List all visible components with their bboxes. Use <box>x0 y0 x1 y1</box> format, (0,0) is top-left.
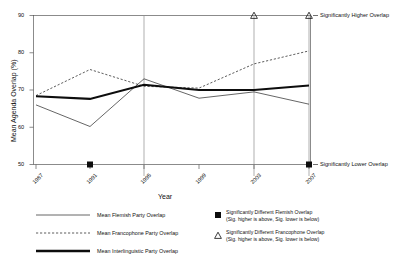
filled-square-marker <box>306 162 312 168</box>
y-tick-label: 80 <box>18 49 24 55</box>
legend-marker-francophone-title: Significantly Different Francophone Over… <box>226 229 324 236</box>
annotation-lower-overlap: Significantly Lower Overlap <box>320 161 388 168</box>
plot-frame <box>34 16 311 165</box>
x-axis-ticks <box>36 165 309 170</box>
annotation-leaders <box>313 16 318 165</box>
annotation-higher-overlap: Significantly Higher Overlap <box>320 12 389 19</box>
legend-marker-flemish-subtitle: (Sig. higher is above, Sig. lower is bel… <box>226 216 319 223</box>
x-axis-title: Year <box>158 193 172 200</box>
legend-item-flemish-label: Mean Flemish Party Overlap <box>97 212 165 218</box>
legend-item-francophone-label: Mean Francophone Party Overlap <box>97 230 178 236</box>
chart-figure: 90 80 70 60 50 Mean Agenda Overlap (%) 1… <box>0 0 413 264</box>
chart-canvas <box>0 0 413 264</box>
open-triangle-marker <box>215 232 222 238</box>
y-axis-ticks <box>30 16 34 165</box>
y-axis-title: Mean Agenda Overlap (%) <box>10 60 17 143</box>
legend-item-interlinguistic-label: Mean Interlinguistic Party Overlap <box>97 248 178 254</box>
y-tick-label: 60 <box>18 124 24 130</box>
vertical-gridlines <box>144 16 309 177</box>
filled-square-marker <box>87 162 93 168</box>
legend-marker-francophone-subtitle: (Sig. higher is above, Sig. lower is bel… <box>226 236 319 243</box>
y-tick-label: 90 <box>18 12 24 18</box>
y-tick-label: 70 <box>18 86 24 92</box>
series-line-interlinguistic <box>36 85 309 99</box>
series-line-flemish <box>36 79 309 127</box>
legend-marker-flemish-title: Significantly Different Flemish Overlap <box>226 209 312 216</box>
y-tick-label: 50 <box>18 161 24 167</box>
filled-square-marker <box>215 212 221 218</box>
